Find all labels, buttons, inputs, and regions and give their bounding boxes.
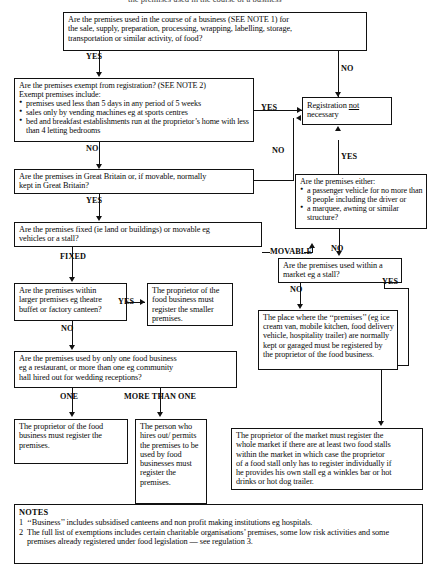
node-answer-garaged: The place where the ‘‘premises’’ (eg ice… <box>258 310 398 370</box>
node-question-fixed: Are the premises fixed (ie land or build… <box>14 222 262 247</box>
node-question-business-line2: the sale, supply, preparation, processin… <box>68 24 363 33</box>
edge-label-larger-yes: YES <box>118 297 134 306</box>
edge-larger-no-arrow <box>69 345 75 350</box>
edge-market-yes-h1 <box>384 288 409 289</box>
node-question-one-or-more: Are the premises used by only one food b… <box>14 351 237 388</box>
node-question-one-or-more-line3: hall hired out for wedding receptions? <box>19 373 233 382</box>
notes-heading: NOTES <box>19 508 418 517</box>
node-registration-not-necessary-text: Registration not <box>307 101 388 110</box>
node-answer-market-proprietor-line2: whole market if there are at least two f… <box>236 440 419 449</box>
node-question-larger-line2: larger premises eg theatre <box>19 295 123 304</box>
edge-label-vehicle-yes: YES <box>341 152 357 161</box>
node-question-one-or-more-line2: eg a restaurant, or more than one eg com… <box>19 363 233 372</box>
edge-business-no-line <box>338 51 339 97</box>
node-answer-proprietor-register: The proprietor of the food business must… <box>14 419 128 464</box>
node-question-market-line1: Are the premises used within a <box>283 261 398 270</box>
node-question-great-britain-line2: kept in Great Britain? <box>19 181 250 190</box>
edge-market-yes-v2 <box>408 288 409 366</box>
node-question-exempt-line2: Exempt premises include: <box>19 90 250 99</box>
edge-label-vehicle-no: NO <box>331 244 343 253</box>
node-answer-market-proprietor-line5: he provides his own stall eg a winkles b… <box>236 468 419 477</box>
edge-label-more-than-one: MORE THAN ONE <box>124 392 196 401</box>
node-question-great-britain-line1: Are the premises in Great Britain or, if… <box>19 172 250 181</box>
node-question-vehicle-bullet-2: a marquee, awning or similar structure? <box>300 204 423 222</box>
edge-label-exempt-no: NO <box>86 144 98 153</box>
registration-text-pre: Registration <box>307 101 349 110</box>
node-question-exempt-line1: Are the premises exempt from registratio… <box>19 81 250 90</box>
edge-vehicle-yes-line <box>338 140 339 174</box>
node-question-great-britain: Are the premises in Great Britain or, if… <box>14 169 254 194</box>
node-question-fixed-line2: vehicles or a stall? <box>19 234 258 243</box>
node-question-vehicle-bullets: a passenger vehicle for no more than 8 p… <box>300 186 423 222</box>
note-text-1: ‘‘Business’’ includes subsidised canteen… <box>27 518 418 527</box>
edge-label-market-yes: YES <box>382 277 398 286</box>
edge-market-no-arrow <box>297 304 303 309</box>
edge-gb-no-h <box>254 180 294 181</box>
node-question-vehicle: Are the premises either: a passenger veh… <box>295 174 427 229</box>
edge-label-gb-no: NO <box>272 146 284 155</box>
node-question-exempt-bullet-3: bed and breakfast establishments run at … <box>19 117 250 135</box>
edge-more-arrow <box>157 412 163 417</box>
edge-label-fixed: FIXED <box>60 252 86 261</box>
edge-vehicle-yes-arrow <box>335 126 341 131</box>
edge-one-arrow <box>69 412 75 417</box>
node-answer-hirer-register: The person who hires out/ permits the pr… <box>135 419 207 504</box>
node-question-exempt-bullet-2: sales only by vending machines eg at spo… <box>19 108 250 117</box>
node-question-larger-line3: buffet or factory canteen? <box>19 305 123 314</box>
edge-market-yes-v3 <box>381 365 382 424</box>
edge-label-business-yes: YES <box>86 52 102 61</box>
edge-larger-yes-arrow <box>140 299 145 305</box>
page-title-fragment: the premises used in the course of a bus… <box>128 0 358 4</box>
node-registration-not-necessary: Registration not necessary <box>302 97 392 125</box>
note-text-2: The full list of exemptions includes cer… <box>27 528 418 547</box>
node-question-vehicle-bullet-1: a passenger vehicle for no more than 8 p… <box>300 186 423 204</box>
node-answer-market-proprietor: The proprietor of the market must regist… <box>231 428 423 490</box>
edge-label-market-no: NO <box>290 285 302 294</box>
node-question-exempt-bullet-1: premises used less than 5 days in any pe… <box>19 99 250 108</box>
edge-fixed-arrow <box>69 277 75 282</box>
node-question-larger: Are the premises within larger premises … <box>14 283 127 321</box>
flowchart-page: the premises used in the course of a bus… <box>0 0 433 572</box>
edge-label-exempt-yes: YES <box>261 103 277 112</box>
node-answer-market-proprietor-line1: The proprietor of the market must regist… <box>236 431 419 440</box>
node-answer-market-proprietor-line3: within the market in which case the prop… <box>236 450 419 459</box>
node-question-larger-line1: Are the premises within <box>19 286 123 295</box>
edge-label-one: ONE <box>60 392 78 401</box>
node-answer-market-proprietor-line6: drinks or hot dog trailer. <box>236 477 419 486</box>
edge-gb-no-v <box>293 118 294 180</box>
registration-text-emph: not <box>349 101 359 110</box>
notes-box: NOTES 1 ‘‘Business’’ includes subsidised… <box>14 504 423 564</box>
node-question-one-or-more-line1: Are the premises used by only one food b… <box>19 354 233 363</box>
note-number-1: 1 <box>19 518 27 527</box>
node-answer-smaller-premises: The proprietor of the food business must… <box>147 283 233 326</box>
edge-business-yes-arrow <box>96 72 102 77</box>
node-question-fixed-line1: Are the premises fixed (ie land or build… <box>19 225 258 234</box>
node-question-exempt: Are the premises exempt from registratio… <box>14 78 254 142</box>
note-item-1: 1 ‘‘Business’’ includes subsidised cante… <box>19 518 418 527</box>
node-question-business: Are the premises used in the course of a… <box>63 12 367 51</box>
node-question-business-line1: Are the premises used in the course of a… <box>68 15 363 24</box>
node-answer-market-proprietor-line4: of a food stall only has to register ind… <box>236 459 419 468</box>
edge-market-yes-arrow <box>378 421 384 426</box>
edge-gb-yes-arrow <box>96 216 102 221</box>
node-question-exempt-bullets: premises used less than 5 days in any pe… <box>19 99 250 135</box>
edge-label-business-no: NO <box>341 64 353 73</box>
edge-label-larger-no: NO <box>61 324 73 333</box>
note-item-2: 2 The full list of exemptions includes c… <box>19 528 418 547</box>
edge-movable-v <box>312 248 313 253</box>
edge-gb-no-arrow <box>296 115 301 121</box>
edge-movable-h <box>262 252 270 253</box>
node-question-vehicle-line1: Are the premises either: <box>300 177 423 186</box>
node-question-business-line3: transportation or similar activity, of f… <box>68 34 363 43</box>
node-registration-not-necessary-text2: necessary <box>307 110 388 119</box>
edge-movable-arrow <box>309 243 315 248</box>
node-question-market-line2: market eg a stall? <box>283 270 398 279</box>
note-number-2: 2 <box>19 528 27 547</box>
edge-label-gb-yes: YES <box>86 196 102 205</box>
